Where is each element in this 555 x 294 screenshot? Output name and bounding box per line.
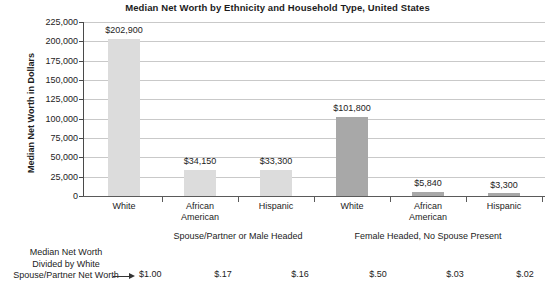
x-tick-mark (466, 197, 467, 202)
y-tick-label: 175,000 (0, 56, 78, 66)
x-category-line1: Hispanic (259, 201, 294, 212)
x-tick-mark (162, 197, 163, 202)
x-category-line2: American (409, 212, 447, 223)
x-category-label-white-female: White (340, 201, 363, 212)
bar-value-label: $34,150 (184, 156, 217, 166)
x-category-line1: African (181, 201, 219, 212)
y-tick-label: 225,000 (0, 17, 78, 27)
bar-hispanic-spouse[interactable] (260, 170, 292, 196)
y-axis-tick-labels: 225,000 200,000 175,000 150,000 125,000 … (0, 22, 78, 197)
bar-value-label: $33,300 (260, 156, 293, 166)
ratio-value-hispanic-female: $.02 (516, 269, 534, 279)
chart-figure: Median Net Worth by Ethnicity and Househ… (0, 0, 555, 294)
ratio-value-white-female: $.50 (369, 269, 387, 279)
bar-value-label: $3,300 (490, 180, 518, 190)
y-axis-line (83, 22, 84, 197)
x-category-label-hispanic-spouse: Hispanic (259, 201, 294, 212)
x-tick-mark (390, 197, 391, 202)
x-category-line1: African (409, 201, 447, 212)
right-arrow-icon (113, 272, 137, 281)
ratio-value-african-american-spouse: $.17 (214, 269, 232, 279)
y-tick-label: 125,000 (0, 94, 78, 104)
group-header-spouse-or-male-headed: Spouse/Partner or Male Headed (173, 231, 302, 241)
ratio-value-hispanic-spouse: $.16 (291, 269, 309, 279)
gridline (83, 99, 545, 100)
y-tick-label: 200,000 (0, 36, 78, 46)
x-tick-mark (238, 197, 239, 202)
group-header-female-headed: Female Headed, No Spouse Present (354, 231, 501, 241)
bar-value-label: $202,900 (105, 25, 143, 35)
y-tick-label: 150,000 (0, 75, 78, 85)
x-category-line1: White (340, 201, 363, 212)
chart-title: Median Net Worth by Ethnicity and Househ… (0, 2, 555, 13)
bar-white-female[interactable] (336, 117, 368, 196)
x-category-label-african-american-female: African American (409, 201, 447, 223)
ratio-caption-line3: Spouse/Partner Net Worth (2, 270, 130, 282)
ratio-caption-line1: Median Net Worth (2, 247, 130, 259)
ratio-value-african-american-female: $.03 (446, 269, 464, 279)
x-category-line1: Hispanic (487, 201, 522, 212)
gridline (83, 80, 545, 81)
bar-value-label: $101,800 (333, 103, 371, 113)
y-tick-label: 50,000 (0, 152, 78, 162)
bar-african-american-spouse[interactable] (184, 170, 216, 196)
y-tick-label: 100,000 (0, 114, 78, 124)
ratio-caption-line2: Divided by White (2, 259, 130, 271)
y-tick-label: 75,000 (0, 133, 78, 143)
bar-value-label: $5,840 (414, 178, 442, 188)
x-tick-mark (314, 197, 315, 202)
gridline (83, 157, 545, 158)
bar-white-spouse[interactable] (108, 39, 140, 196)
x-category-label-hispanic-female: Hispanic (487, 201, 522, 212)
gridline (83, 61, 545, 62)
y-tick-label: 0 (0, 191, 78, 201)
plot-area: $202,900 $34,150 $33,300 $101,800 $5,840… (83, 22, 545, 197)
x-category-line2: American (181, 212, 219, 223)
gridline (83, 138, 545, 139)
x-category-label-african-american-spouse: African American (181, 201, 219, 223)
x-tick-mark (542, 197, 543, 202)
x-category-line1: White (112, 201, 135, 212)
gridline (83, 41, 545, 42)
gridline (83, 22, 545, 23)
bar-african-american-female[interactable] (412, 192, 444, 197)
gridline (83, 119, 545, 120)
cropped-bottom-text (0, 289, 555, 294)
x-category-label-white-spouse: White (112, 201, 135, 212)
ratio-row-caption: Median Net Worth Divided by White Spouse… (2, 247, 130, 282)
y-tick-label: 25,000 (0, 172, 78, 182)
ratio-value-white-spouse: $1.00 (139, 269, 162, 279)
bar-hispanic-female[interactable] (488, 193, 520, 196)
gridline (83, 177, 545, 178)
